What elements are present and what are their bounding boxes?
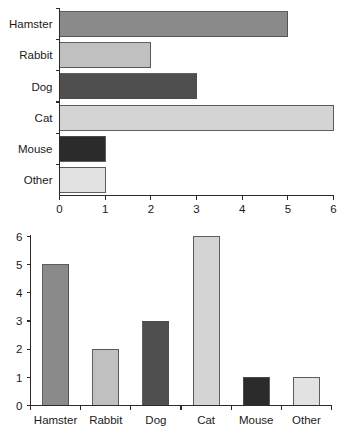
- hbar-bar: [60, 105, 334, 130]
- vbar-bar: [243, 377, 269, 405]
- vbar-bar: [293, 377, 319, 405]
- vbar-bar: [143, 321, 169, 406]
- vbar-bar: [43, 265, 69, 406]
- hbar-category-label: Dog: [31, 81, 52, 93]
- vertical-bar-chart: HamsterRabbitDogCatMouseOther6543210: [0, 224, 346, 448]
- hbar-category-label: Mouse: [18, 143, 53, 155]
- hbar-value-tick-label: 5: [285, 203, 291, 215]
- hbar-bar: [60, 167, 106, 192]
- vbar-value-tick-label: 2: [16, 343, 22, 355]
- hbar-bar: [60, 74, 197, 99]
- hbar-category-label: Hamster: [9, 18, 53, 30]
- vbar-bar: [93, 349, 119, 405]
- hbar-category-label: Cat: [35, 112, 54, 124]
- vbar-category-label: Dog: [145, 414, 166, 426]
- hbar-bar: [60, 12, 288, 37]
- hbar-value-tick-label: 2: [148, 203, 154, 215]
- hbar-bar: [60, 136, 106, 161]
- vertical-bar-chart-canvas: HamsterRabbitDogCatMouseOther6543210: [0, 224, 346, 448]
- vbar-value-tick-label: 4: [16, 287, 23, 299]
- vbar-value-tick-label: 1: [16, 372, 22, 384]
- vbar-category-label: Mouse: [239, 414, 274, 426]
- vbar-category-label: Hamster: [34, 414, 78, 426]
- hbar-value-tick-label: 0: [56, 203, 62, 215]
- hbar-value-tick-label: 1: [102, 203, 108, 215]
- vbar-value-tick-label: 6: [16, 231, 22, 243]
- hbar-bar: [60, 43, 151, 68]
- vbar-value-tick-label: 5: [16, 259, 22, 271]
- vbar-category-label: Cat: [197, 414, 216, 426]
- hbar-value-tick-label: 4: [239, 203, 246, 215]
- vbar-value-tick-label: 0: [16, 400, 22, 412]
- hbar-value-tick-label: 6: [330, 203, 336, 215]
- vbar-value-tick-label: 3: [16, 315, 22, 327]
- hbar-category-label: Rabbit: [19, 49, 53, 61]
- horizontal-bar-chart: HamsterRabbitDogCatMouseOther0123456: [0, 0, 346, 224]
- vbar-category-label: Rabbit: [89, 414, 123, 426]
- vbar-bar: [193, 237, 219, 406]
- hbar-category-label: Other: [24, 174, 53, 186]
- horizontal-bar-chart-canvas: HamsterRabbitDogCatMouseOther0123456: [0, 0, 346, 224]
- vbar-category-label: Other: [292, 414, 321, 426]
- hbar-value-tick-label: 3: [193, 203, 199, 215]
